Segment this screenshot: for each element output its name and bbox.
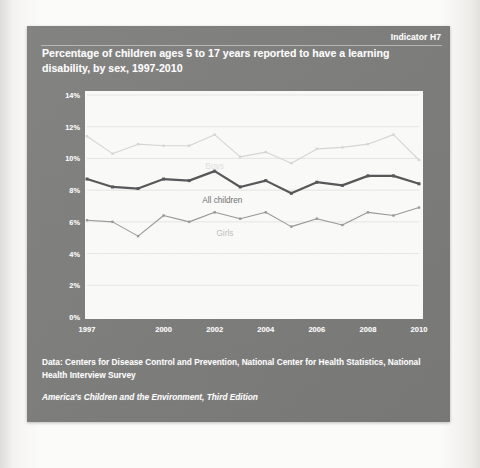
data-point	[264, 179, 267, 182]
data-point	[86, 219, 88, 221]
data-point	[239, 156, 241, 158]
data-point	[239, 185, 242, 188]
plot-region: 0%2%4%6%8%10%12%14%199720002002200420062…	[85, 91, 423, 319]
y-axis-tick-label: 8%	[69, 186, 80, 195]
data-point	[111, 152, 113, 154]
data-point	[137, 143, 139, 145]
data-point	[188, 179, 191, 182]
scanned-page: Indicator H7 Percentage of children ages…	[0, 0, 480, 468]
data-point	[341, 184, 344, 187]
series-label-boys: Boys	[206, 162, 224, 171]
line-chart-svg	[85, 91, 423, 319]
x-axis-tick-label: 1997	[79, 325, 96, 334]
series-label-all-children: All children	[202, 195, 242, 204]
data-point	[418, 159, 420, 161]
data-point	[367, 211, 369, 213]
x-axis-tick-label: 2000	[155, 325, 172, 334]
x-axis-tick-label: 2008	[359, 325, 376, 334]
y-axis-tick-label: 0%	[69, 313, 80, 322]
data-point	[392, 133, 394, 135]
data-point	[290, 192, 293, 195]
data-point	[315, 181, 318, 184]
data-point	[137, 187, 140, 190]
data-point	[137, 235, 139, 237]
y-axis-tick-label: 2%	[69, 281, 80, 290]
x-axis-tick-label: 2006	[308, 325, 325, 334]
data-point	[316, 217, 318, 219]
footer: Data: Centers for Disease Control and Pr…	[42, 356, 438, 402]
data-point	[392, 174, 395, 177]
data-point	[392, 214, 394, 216]
data-point	[341, 224, 343, 226]
x-axis-tick-label: 2002	[206, 325, 223, 334]
data-point	[418, 182, 421, 185]
data-point	[162, 145, 164, 147]
page-title: Percentage of children ages 5 to 17 year…	[42, 46, 434, 76]
data-point	[188, 145, 190, 147]
data-point	[366, 174, 369, 177]
y-axis-tick-label: 10%	[65, 154, 80, 163]
data-point	[239, 217, 241, 219]
indicator-tag: Indicator H7	[391, 32, 441, 42]
data-point	[213, 211, 215, 213]
data-point	[290, 225, 292, 227]
data-point	[316, 148, 318, 150]
publication-note: America's Children and the Environment, …	[42, 392, 438, 402]
data-point	[265, 211, 267, 213]
data-point	[86, 135, 88, 137]
series-label-girls: Girls	[216, 228, 233, 237]
data-point	[162, 178, 165, 181]
y-axis-tick-label: 14%	[65, 91, 80, 100]
data-point	[213, 133, 215, 135]
data-point	[290, 162, 292, 164]
data-point	[111, 185, 114, 188]
data-point	[86, 178, 89, 181]
chart-area: 0%2%4%6%8%10%12%14%199720002002200420062…	[41, 84, 437, 346]
data-point	[111, 221, 113, 223]
y-axis-tick-label: 4%	[69, 249, 80, 258]
data-point	[188, 221, 190, 223]
data-point	[162, 214, 164, 216]
slide-panel: Indicator H7 Percentage of children ages…	[27, 26, 450, 422]
x-axis-tick-label: 2010	[411, 325, 428, 334]
data-point	[341, 146, 343, 148]
x-axis-tick-label: 2004	[257, 325, 274, 334]
y-axis-tick-label: 12%	[65, 122, 80, 131]
data-point	[418, 206, 420, 208]
source-note: Data: Centers for Disease Control and Pr…	[42, 356, 438, 381]
y-axis-tick-label: 6%	[69, 217, 80, 226]
data-point	[367, 143, 369, 145]
data-point	[265, 151, 267, 153]
